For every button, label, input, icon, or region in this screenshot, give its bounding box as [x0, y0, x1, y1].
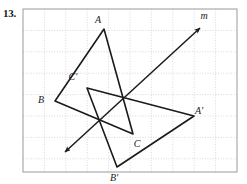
label-a: A — [94, 14, 102, 25]
label-b: B — [38, 94, 44, 105]
label-m: m — [200, 10, 207, 21]
worksheet-page: 13. — [0, 0, 247, 184]
label-c-prime: C' — [69, 71, 79, 82]
label-a-prime: A' — [194, 105, 204, 116]
figure-svg: A B C A' B' C' m — [0, 0, 247, 184]
geometry-figure: A B C A' B' C' m — [0, 0, 247, 184]
label-b-prime: B' — [110, 172, 119, 183]
label-c: C — [134, 138, 141, 149]
